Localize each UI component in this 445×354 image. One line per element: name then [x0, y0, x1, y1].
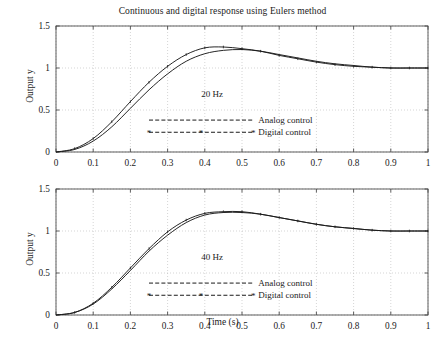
x-tick-label: 1	[426, 158, 431, 168]
x-tick-label: 0.3	[162, 158, 174, 168]
y-tick-label: 1.5	[38, 184, 50, 194]
plot-area-40hz: 00.511.500.10.20.30.40.50.60.70.80.9140 …	[0, 183, 445, 333]
legend-label-analog: Analog control	[258, 115, 313, 125]
y-tick-label: 0	[45, 147, 50, 157]
legend-label-analog: Analog control	[258, 278, 313, 288]
curve-analog-control	[56, 49, 428, 152]
frequency-annotation: 20 Hz	[201, 89, 223, 99]
x-tick-label: 0.4	[199, 158, 211, 168]
figure-container: Continuous and digital response using Eu…	[0, 0, 445, 354]
legend-asterisk-marker: *	[147, 291, 152, 301]
chart-title: Continuous and digital response using Eu…	[0, 6, 445, 16]
x-tick-label: 0.9	[385, 158, 397, 168]
frequency-annotation: 40 Hz	[201, 252, 223, 262]
y-tick-label: 1.5	[38, 21, 50, 31]
subplot-20hz: Output y 00.511.500.10.20.30.40.50.60.70…	[0, 20, 445, 170]
plot-area-20hz: 00.511.500.10.20.30.40.50.60.70.80.9120 …	[0, 20, 445, 170]
x-tick-label: 0.5	[236, 158, 248, 168]
y-axis-label-bottom: Output y	[25, 219, 35, 279]
x-tick-label: 0.6	[273, 158, 285, 168]
x-tick-label: 0.8	[348, 158, 360, 168]
x-axis-label: Time (s)	[0, 317, 445, 327]
y-tick-label: 1	[45, 226, 50, 236]
legend-label-digital: Digital control	[258, 290, 311, 300]
x-tick-label: 0.7	[311, 158, 323, 168]
legend-asterisk-marker: *	[199, 128, 204, 138]
legend-asterisk-marker: *	[251, 291, 256, 301]
subplot-40hz: Output y 00.511.500.10.20.30.40.50.60.70…	[0, 183, 445, 333]
legend-asterisk-marker: *	[147, 128, 152, 138]
y-tick-label: 0.5	[38, 105, 50, 115]
x-tick-label: 0.1	[87, 158, 99, 168]
y-tick-label: 1	[45, 63, 50, 73]
curve-digital-control	[56, 211, 428, 315]
legend-asterisk-marker: *	[199, 291, 204, 301]
curve-analog-control	[56, 212, 428, 315]
x-tick-label: 0	[54, 158, 59, 168]
x-tick-label: 0.2	[125, 158, 137, 168]
legend-label-digital: Digital control	[258, 127, 311, 137]
y-axis-label-top: Output y	[25, 56, 35, 116]
y-tick-label: 0.5	[38, 268, 50, 278]
legend-asterisk-marker: *	[251, 128, 256, 138]
